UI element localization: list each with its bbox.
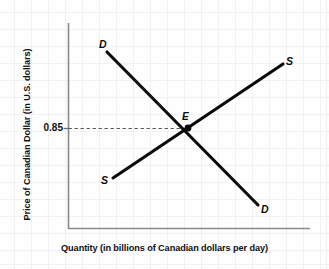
demand-curve-label-bottom: D bbox=[261, 203, 269, 215]
supply-demand-chart-figure: Price of Canadian Dollar (in U.S. dollar… bbox=[0, 0, 329, 269]
x-axis-title: Quantity (in billions of Canadian dollar… bbox=[0, 243, 329, 253]
supply-curve bbox=[113, 64, 283, 178]
equilibrium-point-label: E bbox=[182, 111, 189, 122]
demand-curve-label-top: D bbox=[99, 38, 107, 50]
y-axis-title: Price of Canadian Dollar (in U.S. dollar… bbox=[16, 0, 38, 269]
supply-curve-label-bottom: S bbox=[101, 174, 108, 186]
plot-area-svg bbox=[0, 0, 329, 269]
y-axis-tick-label-085: 0.85 bbox=[22, 122, 63, 133]
supply-curve-label-top: S bbox=[286, 55, 293, 67]
equilibrium-point-marker bbox=[185, 125, 192, 132]
